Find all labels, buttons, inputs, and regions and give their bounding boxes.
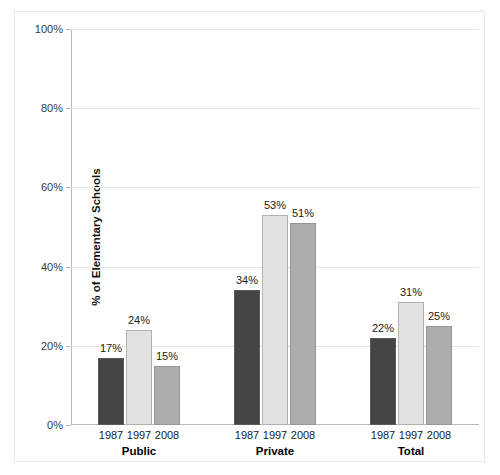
- bar-slot: 25%: [426, 29, 452, 425]
- bar-slot: 17%: [98, 29, 124, 425]
- bar[interactable]: [290, 223, 316, 425]
- bar[interactable]: [398, 302, 424, 425]
- bar-value-label: 24%: [128, 315, 150, 326]
- bar-slot: 53%: [262, 29, 288, 425]
- bar-value-label: 53%: [264, 200, 286, 211]
- y-tick-label: 60%: [41, 182, 63, 193]
- bar-slot: 22%: [370, 29, 396, 425]
- bar-value-label: 22%: [372, 323, 394, 334]
- x-group-name: Private: [256, 446, 294, 458]
- bar[interactable]: [126, 330, 152, 425]
- x-tick-label-year: 2008: [155, 430, 179, 441]
- bar-slot: 15%: [154, 29, 180, 425]
- bar-group: 17%24%15%: [71, 29, 207, 425]
- x-group-labels: 198719972008Public: [71, 426, 207, 462]
- x-tick-label-year: 1997: [127, 430, 151, 441]
- plot-area: 0%20%40%60%80%100% 17%24%15%34%53%51%22%…: [71, 29, 479, 425]
- bar[interactable]: [262, 215, 288, 425]
- y-tick-label: 0%: [47, 420, 63, 431]
- bar-value-label: 34%: [236, 275, 258, 286]
- x-tick-label-year: 1997: [399, 430, 423, 441]
- x-group-name: Total: [398, 446, 425, 458]
- x-axis-labels: 198719972008Public198719972008Private198…: [71, 426, 479, 462]
- x-tick-label-year: 2008: [427, 430, 451, 441]
- bar[interactable]: [98, 358, 124, 425]
- bar[interactable]: [234, 290, 260, 425]
- bar-slot: 51%: [290, 29, 316, 425]
- x-tick-label-year: 1987: [99, 430, 123, 441]
- bar-series-container: 17%24%15%34%53%51%22%31%25%: [71, 29, 479, 425]
- x-tick-label-year: 1997: [263, 430, 287, 441]
- bar-value-label: 15%: [156, 351, 178, 362]
- chart-figure: % of Elementary Schools 0%20%40%60%80%10…: [14, 11, 485, 462]
- bar-group: 22%31%25%: [343, 29, 479, 425]
- bar-group: 34%53%51%: [207, 29, 343, 425]
- x-tick-label-year: 2008: [291, 430, 315, 441]
- x-group-name: Public: [122, 446, 157, 458]
- bar[interactable]: [154, 366, 180, 425]
- bar-value-label: 31%: [400, 287, 422, 298]
- bar-value-label: 51%: [292, 208, 314, 219]
- x-group-labels: 198719972008Total: [343, 426, 479, 462]
- y-tick-label: 20%: [41, 340, 63, 351]
- x-tick-label-year: 1987: [235, 430, 259, 441]
- x-group-labels: 198719972008Private: [207, 426, 343, 462]
- y-tick-label: 40%: [41, 261, 63, 272]
- bar[interactable]: [426, 326, 452, 425]
- bar-slot: 24%: [126, 29, 152, 425]
- y-tick-label: 100%: [35, 24, 63, 35]
- bar[interactable]: [370, 338, 396, 425]
- bar-value-label: 17%: [100, 343, 122, 354]
- bar-value-label: 25%: [428, 311, 450, 322]
- bar-slot: 34%: [234, 29, 260, 425]
- bar-slot: 31%: [398, 29, 424, 425]
- x-tick-label-year: 1987: [371, 430, 395, 441]
- y-tick-label: 80%: [41, 103, 63, 114]
